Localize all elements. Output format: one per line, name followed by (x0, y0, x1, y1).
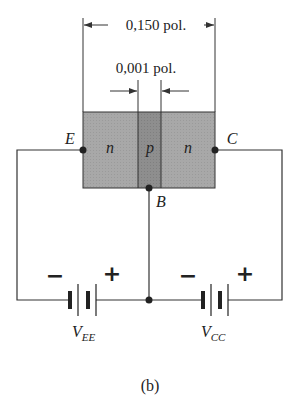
base-width-dimension (110, 80, 189, 112)
emitter-terminal-label: E (64, 130, 75, 147)
collector-node (212, 147, 219, 154)
vcc-positive-sign: + (236, 261, 254, 286)
arrow-left-icon (84, 22, 92, 28)
base-terminal-label: B (156, 193, 166, 210)
junction-node (146, 297, 153, 304)
emitter-region-label: n (106, 139, 114, 156)
collector-terminal-label: C (227, 130, 238, 147)
arrow-left-icon (162, 88, 170, 94)
vee-battery-icon (70, 284, 96, 316)
base-region-label: p (145, 139, 154, 157)
vcc-battery-icon (203, 284, 228, 316)
base-node (146, 185, 153, 192)
vcc-label: VCC (201, 323, 226, 343)
vee-positive-sign: + (103, 261, 121, 286)
arrow-right-icon (206, 22, 214, 28)
vee-label: VEE (72, 323, 96, 343)
arrow-right-icon (129, 88, 137, 94)
emitter-node (80, 147, 87, 154)
collector-region-label: n (184, 139, 192, 156)
total-width-label: 0,150 pol. (126, 17, 186, 33)
transistor-diagram: 0,150 pol. 0,001 pol. n p n E C B (0, 0, 302, 416)
figure-caption: (b) (141, 377, 160, 395)
base-width-label: 0,001 pol. (116, 60, 176, 76)
vee-negative-sign: − (46, 263, 64, 288)
vcc-negative-sign: − (179, 263, 197, 288)
